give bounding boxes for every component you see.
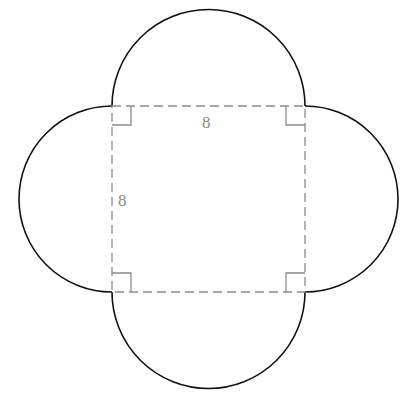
top-semicircle [112,10,305,106]
right-angle-markers [112,106,305,292]
semicircle-outline [19,10,398,389]
dashed-square [112,106,305,292]
right-semicircle [305,106,398,292]
top-side-label: 8 [202,113,211,132]
bottom-semicircle [112,292,305,388]
diagram: 8 8 [0,0,407,405]
left-side-label: 8 [118,191,127,210]
right-angle-icon-top-right [286,106,305,125]
right-angle-icon-top-left [112,106,131,125]
right-angle-icon-bottom-left [112,273,131,292]
right-angle-icon-bottom-right [286,273,305,292]
left-semicircle [19,106,112,292]
